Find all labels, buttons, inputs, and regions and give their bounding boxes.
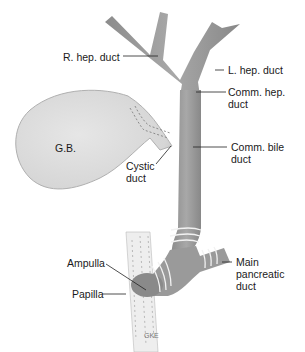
label-l-hep-duct: L. hep. duct — [228, 64, 283, 76]
label-cystic-duct-line1: Cystic — [126, 160, 155, 172]
label-ampulla: Ampulla — [67, 257, 105, 269]
label-main-pancreatic-line2: pancreatic — [236, 268, 284, 280]
label-comm-hep-duct-line1: Comm. hep. — [228, 86, 285, 98]
label-gallbladder: G.B. — [55, 142, 76, 154]
label-cystic-duct-line2: duct — [126, 172, 146, 184]
label-papilla: Papilla — [72, 288, 104, 300]
label-r-hep-duct: R. hep. duct — [63, 51, 120, 63]
label-comm-bile-duct-line2: duct — [231, 153, 251, 165]
label-comm-hep-duct-line2: duct — [228, 98, 248, 110]
biliary-diagram — [0, 0, 305, 352]
hepatic-ducts — [105, 12, 240, 96]
label-main-pancreatic-line1: Main — [236, 256, 259, 268]
label-main-pancreatic-line3: duct — [236, 280, 256, 292]
artist-signature: GKE — [144, 330, 159, 342]
common-bile-duct — [172, 90, 201, 258]
label-comm-bile-duct-line1: Comm. bile — [231, 141, 284, 153]
gallbladder — [16, 90, 172, 189]
